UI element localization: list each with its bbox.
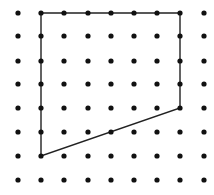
grid-dot (131, 129, 136, 134)
grid-dot (201, 177, 206, 182)
grid-dot (85, 153, 90, 158)
grid-dot (154, 153, 159, 158)
grid-dot (201, 81, 206, 86)
grid-dot (108, 105, 113, 110)
grid-dot (38, 58, 43, 63)
grid-dot (38, 177, 43, 182)
grid-dot (201, 10, 206, 15)
grid-dot (38, 10, 43, 15)
grid-dot (177, 10, 182, 15)
grid-dot (108, 177, 113, 182)
grid-dot (38, 33, 43, 38)
grid-dot (154, 177, 159, 182)
grid-dot (38, 105, 43, 110)
grid-dot (131, 58, 136, 63)
grid-dot (108, 129, 113, 134)
grid-dot (177, 177, 182, 182)
grid-dot (131, 105, 136, 110)
grid-dot (85, 105, 90, 110)
grid-dot (15, 105, 20, 110)
grid-dot (154, 105, 159, 110)
grid-dot (108, 81, 113, 86)
grid-dot (15, 177, 20, 182)
grid-dot (85, 177, 90, 182)
grid-dot (61, 10, 66, 15)
grid-dot (131, 153, 136, 158)
grid-dot (38, 153, 43, 158)
grid-dot (177, 81, 182, 86)
grid-dot (108, 153, 113, 158)
grid-dot (154, 10, 159, 15)
grid-dot (61, 58, 66, 63)
grid-dot (177, 58, 182, 63)
grid-dot (61, 105, 66, 110)
grid-dot (177, 33, 182, 38)
grid-dot (131, 33, 136, 38)
grid-dot (154, 33, 159, 38)
grid-dot (61, 33, 66, 38)
grid-dot (61, 81, 66, 86)
grid-dot (85, 10, 90, 15)
grid-dot (131, 177, 136, 182)
grid-dot (108, 58, 113, 63)
grid-dot (201, 105, 206, 110)
grid-dot (131, 10, 136, 15)
grid-dot (177, 129, 182, 134)
grid-dot (154, 129, 159, 134)
grid-dot (85, 81, 90, 86)
grid-dot (201, 58, 206, 63)
grid-dot (85, 58, 90, 63)
grid-dot (201, 129, 206, 134)
grid-dot (15, 10, 20, 15)
grid-dot (108, 33, 113, 38)
grid-dot (85, 129, 90, 134)
grid-dot (61, 153, 66, 158)
grid-dot (154, 81, 159, 86)
grid-dot (177, 153, 182, 158)
grid-dot (85, 33, 90, 38)
grid-dot (15, 81, 20, 86)
grid-dot (177, 105, 182, 110)
grid-dots (15, 10, 206, 182)
grid-dot (131, 81, 136, 86)
grid-dot (38, 81, 43, 86)
grid-dot (154, 58, 159, 63)
grid-dot (61, 129, 66, 134)
grid-dot (201, 33, 206, 38)
grid-dot (15, 58, 20, 63)
grid-dot (61, 177, 66, 182)
dot-grid-diagram (0, 0, 214, 195)
grid-dot (108, 10, 113, 15)
grid-dot (38, 129, 43, 134)
grid-dot (15, 33, 20, 38)
grid-dot (15, 153, 20, 158)
grid-dot (201, 153, 206, 158)
grid-dot (15, 129, 20, 134)
